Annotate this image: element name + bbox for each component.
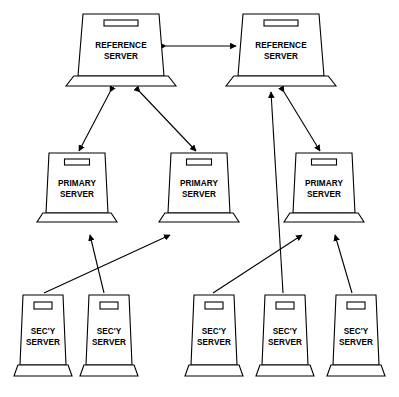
server-node-sec3[interactable]: SEC'YSERVER: [185, 295, 243, 376]
server-label-line1: SEC'Y: [344, 327, 369, 336]
connection-sec2-to-pri1: [90, 235, 104, 293]
connection-sec3-to-pri3: [213, 235, 302, 293]
server-node-sec2[interactable]: SEC'YSERVER: [80, 295, 138, 376]
drive-slot-icon: [264, 20, 298, 26]
server-label-line2: SERVER: [182, 190, 216, 199]
drive-slot-icon: [276, 302, 294, 309]
server-base-pri3: [284, 213, 364, 222]
server-base-sec1: [14, 365, 72, 376]
drive-slot-icon: [34, 302, 52, 309]
server-nodes: REFERENCESERVERREFERENCESERVERPRIMARYSER…: [14, 14, 385, 376]
drive-slot-icon: [187, 159, 212, 165]
server-label-line1: SEC'Y: [202, 327, 227, 336]
server-node-ref2[interactable]: REFERENCESERVER: [226, 14, 336, 86]
server-label-line1: SEC'Y: [97, 327, 122, 336]
server-base-sec4: [256, 365, 314, 376]
network-diagram: REFERENCESERVERREFERENCESERVERPRIMARYSER…: [0, 0, 399, 397]
server-label-line2: SERVER: [197, 338, 231, 347]
server-base-pri1: [37, 213, 117, 222]
server-base-sec2: [80, 365, 138, 376]
server-label-line1: PRIMARY: [58, 179, 97, 188]
server-label-line1: REFERENCE: [95, 41, 147, 50]
drive-slot-icon: [100, 302, 118, 309]
server-label-line2: SERVER: [264, 52, 298, 61]
drive-slot-icon: [347, 302, 365, 309]
server-label-line1: SEC'Y: [273, 327, 298, 336]
server-base-ref1: [66, 76, 176, 86]
server-label-line2: SERVER: [92, 338, 126, 347]
server-label-line2: SERVER: [339, 338, 373, 347]
server-node-sec5[interactable]: SEC'YSERVER: [327, 295, 385, 376]
connection-sec4-to-ref2: [271, 92, 283, 293]
server-label-line2: SERVER: [26, 338, 60, 347]
server-node-sec4[interactable]: SEC'YSERVER: [256, 295, 314, 376]
server-node-pri2[interactable]: PRIMARYSERVER: [159, 153, 239, 222]
drive-slot-icon: [205, 302, 223, 309]
server-label-line1: REFERENCE: [255, 41, 307, 50]
server-base-ref2: [226, 76, 336, 86]
server-label-line2: SERVER: [104, 52, 138, 61]
server-label-line2: SERVER: [60, 190, 94, 199]
drive-slot-icon: [104, 20, 138, 26]
connection-ref1-to-pri1: [79, 92, 110, 151]
server-label-line2: SERVER: [307, 190, 341, 199]
server-node-pri1[interactable]: PRIMARYSERVER: [37, 153, 117, 222]
server-base-sec3: [185, 365, 243, 376]
connection-ref2-to-pri3: [284, 92, 320, 151]
connection-ref1-to-pri2: [140, 92, 196, 151]
server-label-line1: PRIMARY: [180, 179, 219, 188]
connection-sec5-to-pri3: [335, 235, 352, 293]
server-node-ref1[interactable]: REFERENCESERVER: [66, 14, 176, 86]
server-label-line1: PRIMARY: [305, 179, 344, 188]
server-node-sec1[interactable]: SEC'YSERVER: [14, 295, 72, 376]
connection-sec1-to-pri2: [44, 235, 170, 293]
server-base-sec5: [327, 365, 385, 376]
drive-slot-icon: [65, 159, 90, 165]
server-label-line1: SEC'Y: [31, 327, 56, 336]
drive-slot-icon: [312, 159, 337, 165]
server-node-pri3[interactable]: PRIMARYSERVER: [284, 153, 364, 222]
server-label-line2: SERVER: [268, 338, 302, 347]
server-base-pri2: [159, 213, 239, 222]
